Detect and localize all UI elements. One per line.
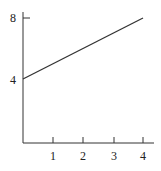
data-line [23,18,143,79]
x-tick-label-4: 4 [140,149,146,163]
x-tick-label-2: 2 [80,149,86,163]
line-chart: 8 4 1 2 3 4 [0,0,161,171]
y-tick-label-8: 8 [10,11,16,25]
x-tick-label-3: 3 [111,149,117,163]
y-tick-label-4: 4 [10,73,16,87]
x-tick-label-1: 1 [50,149,56,163]
